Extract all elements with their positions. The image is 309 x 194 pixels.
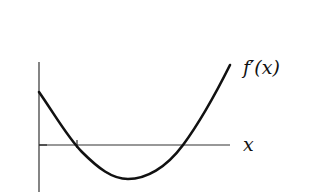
derivative-curve: [39, 65, 230, 179]
curve-label: f′(x): [241, 56, 280, 78]
x-axis-label: x: [243, 133, 254, 155]
derivative-graph: f′(x) x: [0, 0, 309, 194]
